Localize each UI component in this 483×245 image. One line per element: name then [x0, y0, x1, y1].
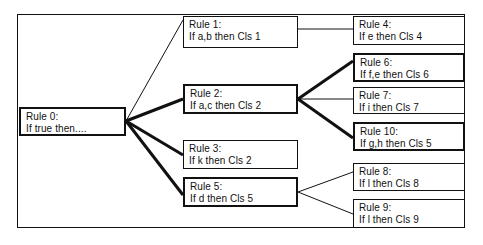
- node-rule-0[interactable]: Rule 0:If true then....: [19, 107, 126, 136]
- connector-rule-5-to-rule-9: [298, 192, 353, 214]
- node-rule-2-title: Rule 2:: [190, 88, 296, 100]
- node-rule-1[interactable]: Rule 1:If a,b then Cls 1: [183, 16, 298, 48]
- connector-rule-2-to-rule-6: [298, 61, 353, 99]
- node-rule-9-body: If l then Cls 9: [359, 214, 464, 226]
- connector-rule-2-to-rule-10: [298, 99, 353, 138]
- node-rule-9[interactable]: Rule 9:If l then Cls 9: [353, 199, 465, 228]
- node-rule-4-body: If e then Cls 4: [359, 31, 464, 43]
- node-rule-6-body: If f,e then Cls 6: [360, 69, 463, 81]
- node-rule-4-title: Rule 4:: [359, 19, 464, 31]
- node-rule-3-title: Rule 3:: [189, 143, 297, 155]
- diagram-canvas: Rule 0:If true then....Rule 1:If a,b the…: [0, 0, 483, 245]
- node-rule-8-title: Rule 8:: [359, 166, 464, 178]
- node-rule-6-title: Rule 6:: [360, 57, 463, 69]
- node-rule-5-body: If d then Cls 5: [190, 193, 296, 205]
- node-rule-7-title: Rule 7:: [359, 90, 464, 102]
- node-rule-10[interactable]: Rule 10:If g,h then Cls 5: [353, 122, 465, 151]
- node-rule-0-title: Rule 0:: [26, 111, 124, 123]
- connector-rule-0-to-rule-2: [126, 99, 183, 121]
- node-rule-0-body: If true then....: [26, 123, 124, 135]
- node-rule-5[interactable]: Rule 5:If d then Cls 5: [183, 177, 298, 207]
- connector-rule-0-to-rule-5: [126, 121, 183, 195]
- node-rule-2-body: If a,c then Cls 2: [190, 100, 296, 112]
- connector-rule-5-to-rule-8: [298, 172, 353, 192]
- node-rule-3-body: If k then Cls 2: [189, 155, 297, 167]
- connector-rule-0-to-rule-1: [126, 20, 183, 121]
- node-rule-5-title: Rule 5:: [190, 181, 296, 193]
- node-rule-7-body: If i then Cls 7: [359, 102, 464, 114]
- node-rule-1-body: If a,b then Cls 1: [189, 31, 297, 43]
- node-rule-10-body: If g,h then Cls 5: [360, 138, 463, 150]
- node-rule-8[interactable]: Rule 8:If l then Cls 8: [353, 163, 465, 191]
- node-rule-1-title: Rule 1:: [189, 19, 297, 31]
- node-rule-10-title: Rule 10:: [360, 126, 463, 138]
- connector-rule-0-to-rule-3: [126, 121, 183, 155]
- node-rule-4[interactable]: Rule 4:If e then Cls 4: [353, 16, 465, 45]
- node-rule-8-body: If l then Cls 8: [359, 178, 464, 190]
- node-rule-7[interactable]: Rule 7:If i then Cls 7: [353, 87, 465, 114]
- node-rule-9-title: Rule 9:: [359, 202, 464, 214]
- node-rule-6[interactable]: Rule 6:If f,e then Cls 6: [353, 53, 465, 82]
- node-rule-3[interactable]: Rule 3:If k then Cls 2: [183, 140, 298, 169]
- node-rule-2[interactable]: Rule 2:If a,c then Cls 2: [183, 84, 298, 114]
